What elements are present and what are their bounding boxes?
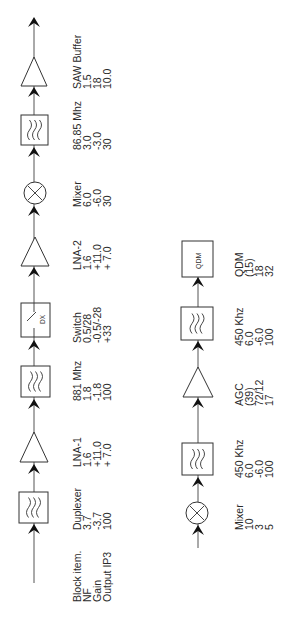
- qdm-block-icon: QDM: [182, 241, 213, 277]
- upper-col-saw-buffer: SAW Buffer 1.5 18 10.0: [72, 35, 112, 89]
- lower-mixer-icon: [186, 502, 208, 524]
- upper-col-881-mhz: 881 Mhz 1.8 -1.8 100: [72, 361, 112, 401]
- ip3-value: 100: [264, 439, 274, 478]
- upper-col-86-85-mhz: 86.85 Mhz 3.0 -3.0 30: [72, 101, 112, 150]
- ip3-value: 32: [264, 253, 274, 278]
- ip3-value: 100: [102, 488, 112, 530]
- ip3-value: 100: [264, 307, 274, 346]
- lna-1-amplifier-icon: [20, 432, 48, 462]
- upper-col-duplexer: Duplexer 3.7 -3.7 100: [72, 488, 112, 530]
- lna-2-amplifier-icon: [21, 237, 49, 266]
- duplexer-filter-icon: [19, 492, 48, 523]
- upper-col-lna-1: LNA-1 1.6 +11.0 + 7.0: [72, 437, 112, 467]
- upper-col-mixer: Mixer 6.0 -6.0 30: [72, 181, 112, 207]
- ip3-value: 30: [102, 181, 112, 207]
- qdm-symbol-label: QDM: [195, 253, 203, 270]
- row-labels-column: Block item. NF Gain Output IP3: [72, 551, 112, 602]
- ip3-value: +33: [102, 307, 112, 343]
- switch-symbol-label: DX: [39, 314, 46, 324]
- row-label-output-ip3: Output IP3: [102, 551, 112, 602]
- filter-86-85-mhz-icon: [21, 115, 48, 145]
- lower-col-agc: AGC (39) 72/12 17: [234, 380, 274, 406]
- upper-col-switch: Switch 0.5/28 -0.5/-28 +33: [72, 307, 112, 343]
- filter-881-mhz-icon: [21, 366, 50, 397]
- ip3-value: + 7.0: [102, 240, 112, 270]
- switch-dx-icon: DX: [21, 303, 50, 337]
- agc-amplifier-icon: [183, 367, 213, 397]
- ip3-value: 30: [102, 101, 112, 150]
- ip3-value: 5: [264, 504, 274, 530]
- ip3-value: 17: [264, 380, 274, 406]
- lower-col-qdm: QDM (15) 18 32: [234, 253, 274, 278]
- filter-450-khz-2-icon: [181, 307, 213, 340]
- upper-mixer-icon: [24, 182, 46, 204]
- ip3-value: 100: [102, 361, 112, 401]
- filter-450-khz-1-icon: [182, 443, 213, 475]
- lower-col-450-khz-2: 450 Khz 6.0 -6.0 100: [234, 307, 274, 346]
- ip3-value: + 7.0: [102, 437, 112, 467]
- lower-col-mixer: Mixer 10 3 5: [234, 504, 274, 530]
- saw-buffer-amplifier-icon: [21, 57, 47, 86]
- ip3-value: 10.0: [102, 35, 112, 89]
- upper-col-lna-2: LNA-2 1.6 +11.0 + 7.0: [72, 240, 112, 270]
- lower-col-450-khz-1: 450 Khz 6.0 -6.0 100: [234, 439, 274, 478]
